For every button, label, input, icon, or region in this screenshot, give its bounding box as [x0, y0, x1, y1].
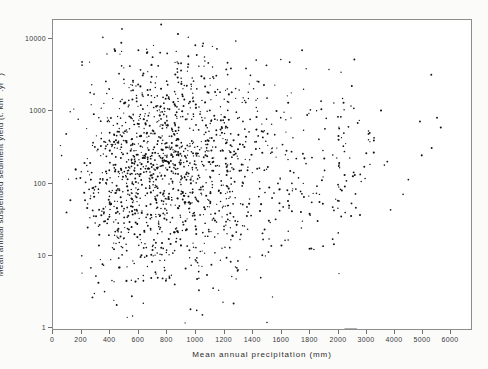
data-point: [196, 155, 198, 157]
data-point: [150, 101, 152, 103]
data-point: [147, 214, 149, 216]
data-point: [161, 111, 163, 113]
data-point: [195, 167, 197, 169]
y-axis-title: Mean annual suspended sediment yield (t.…: [0, 19, 8, 330]
data-point: [158, 120, 159, 121]
data-point: [189, 101, 191, 103]
data-point: [119, 53, 120, 54]
data-point: [190, 182, 192, 184]
data-point: [169, 276, 171, 278]
data-point: [168, 193, 170, 195]
data-point: [152, 249, 154, 251]
data-point: [232, 191, 233, 192]
data-point: [137, 173, 139, 175]
data-point: [99, 182, 101, 184]
data-point: [260, 277, 262, 279]
data-point: [139, 218, 140, 219]
data-point: [161, 158, 163, 160]
data-point: [170, 160, 172, 162]
data-point: [311, 157, 313, 159]
scatter-plot-figure: Mean annual suspended sediment yield (t.…: [0, 0, 488, 369]
data-point: [156, 95, 158, 97]
data-point: [175, 114, 177, 116]
data-point: [210, 164, 212, 166]
data-point: [226, 88, 228, 90]
data-point: [87, 158, 88, 159]
data-point-outlier: [194, 44, 196, 46]
data-point: [181, 81, 183, 83]
data-point: [146, 222, 148, 224]
data-point: [106, 53, 107, 54]
data-point: [129, 194, 131, 196]
data-point: [245, 159, 246, 160]
data-point: [99, 224, 101, 226]
data-point: [322, 245, 324, 247]
data-point: [191, 151, 193, 153]
data-point: [233, 139, 235, 141]
data-point: [109, 121, 110, 122]
data-point: [133, 200, 134, 201]
data-point: [176, 230, 178, 232]
data-point: [164, 208, 166, 210]
data-point: [237, 221, 239, 223]
data-point: [257, 98, 258, 99]
data-point: [128, 232, 129, 233]
data-point: [123, 133, 125, 135]
data-point: [210, 84, 211, 85]
data-point: [250, 75, 252, 77]
data-point: [373, 152, 375, 154]
data-point: [123, 67, 124, 68]
data-point: [320, 100, 322, 102]
data-point: [113, 206, 114, 207]
data-point: [229, 150, 230, 151]
data-point: [184, 201, 186, 203]
data-point: [154, 152, 156, 154]
data-point: [123, 112, 124, 113]
data-point: [114, 147, 115, 148]
data-point: [126, 200, 127, 201]
data-point: [204, 117, 205, 118]
data-point: [351, 203, 353, 205]
data-point: [227, 186, 229, 188]
data-point: [141, 92, 142, 93]
data-point: [202, 119, 204, 121]
data-point-outlier: [266, 64, 268, 66]
data-point: [249, 83, 250, 84]
data-point: [172, 217, 174, 219]
data-point: [230, 239, 231, 240]
data-point: [309, 215, 310, 216]
data-point: [202, 45, 204, 47]
data-point: [206, 147, 208, 149]
data-point: [136, 236, 138, 238]
data-point: [207, 199, 208, 200]
data-point: [133, 170, 135, 172]
data-point: [191, 140, 193, 142]
x-tick-label: 6000: [442, 336, 459, 343]
data-point: [121, 51, 122, 52]
data-point: [211, 187, 213, 189]
data-point: [190, 83, 192, 85]
data-point: [274, 84, 275, 85]
data-point: [359, 120, 360, 121]
data-point: [318, 201, 320, 203]
data-point: [142, 280, 144, 282]
data-point: [323, 157, 325, 159]
data-point: [204, 253, 205, 254]
data-point: [246, 206, 248, 208]
data-point: [180, 179, 182, 181]
data-point: [98, 117, 100, 119]
data-point: [144, 157, 146, 159]
data-point: [192, 192, 194, 194]
data-point: [176, 116, 177, 117]
data-point: [147, 105, 148, 106]
data-point: [210, 150, 212, 152]
data-point: [93, 192, 95, 194]
data-point: [161, 200, 163, 202]
data-point: [131, 162, 133, 164]
data-point: [100, 138, 102, 140]
data-point: [220, 128, 222, 130]
data-point: [207, 206, 208, 207]
data-point: [120, 196, 122, 198]
data-point: [140, 163, 142, 165]
data-point: [228, 198, 229, 199]
